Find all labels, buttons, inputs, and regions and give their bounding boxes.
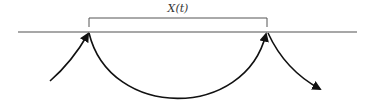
interval-label: X(t): [167, 2, 189, 15]
incoming-arrow-arc: [50, 34, 88, 81]
renewal-diagram: X(t): [0, 0, 375, 102]
outgoing-arrow-arc: [268, 33, 320, 89]
main-jump-arc: [89, 33, 266, 98]
interval-bracket: [89, 18, 267, 27]
